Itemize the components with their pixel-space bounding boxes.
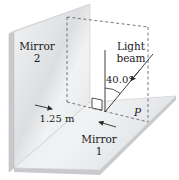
angle-arc [105,88,120,94]
right-angle-marker [92,98,102,110]
point-p-label: P [133,106,142,118]
mirror-1-label-line1: Mirror [81,133,117,145]
beam-label-line2: beam [116,52,145,64]
distance-label: 1.25 m [40,113,75,124]
mirror-2-label-line2: 2 [34,52,41,64]
two-mirror-diagram: Mirror 2 Light beam 40.0° 1.25 m P Mirro… [0,0,179,180]
mirror-2-label-line1: Mirror [19,40,55,52]
mirror-2-edge [9,31,14,172]
angle-label: 40.0° [106,74,133,85]
beam-label-line1: Light [117,40,146,52]
mirror-1-label-line2: 1 [96,145,103,157]
